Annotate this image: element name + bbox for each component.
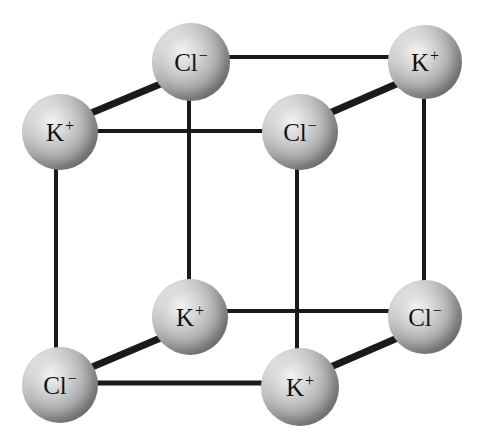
ion-label-cl-top-back: Cl−: [174, 50, 208, 75]
ion-label-cl-bottom-front-left: Cl−: [43, 373, 77, 398]
ion-sphere-k-top-back-right: K+: [388, 25, 462, 99]
ion-sphere-cl-top-front-right: Cl−: [262, 94, 338, 170]
ion-label-cl-bottom-back-right: Cl−: [408, 305, 442, 330]
ion-symbol: K: [286, 374, 304, 401]
ion-sphere-k-bottom-back-left: K+: [152, 279, 228, 355]
ion-symbol: Cl: [283, 119, 307, 146]
ion-symbol: K: [176, 304, 194, 331]
ion-sphere-cl-top-back: Cl−: [152, 23, 230, 101]
ion-sphere-k-top-front-left: K+: [22, 94, 98, 170]
crystal-lattice-figure: Cl−K+K+Cl−K+Cl−Cl−K+: [0, 0, 484, 436]
bond-bottom-left-diagonal: [85, 334, 170, 370]
ion-sphere-cl-bottom-back-right: Cl−: [388, 280, 462, 354]
ion-charge: −: [68, 370, 77, 387]
ion-charge: +: [430, 47, 439, 64]
ion-symbol: Cl: [43, 372, 67, 399]
ion-charge: −: [308, 117, 317, 134]
ion-sphere-cl-bottom-front-left: Cl−: [22, 347, 98, 423]
ion-label-cl-top-front-right: Cl−: [283, 120, 317, 145]
ion-charge: −: [433, 302, 442, 319]
ion-symbol: Cl: [408, 304, 432, 331]
ion-symbol: K: [411, 49, 429, 76]
ion-label-k-top-front-left: K+: [46, 120, 74, 145]
ion-sphere-k-bottom-front-right: K+: [261, 348, 339, 426]
ion-charge: +: [65, 117, 74, 134]
ion-charge: −: [199, 47, 208, 64]
ion-symbol: Cl: [174, 49, 198, 76]
ion-label-k-bottom-back-left: K+: [176, 305, 204, 330]
ion-label-k-top-back-right: K+: [411, 50, 439, 75]
ion-charge: +: [195, 302, 204, 319]
ion-label-k-bottom-front-right: K+: [286, 375, 314, 400]
ion-charge: +: [305, 372, 314, 389]
bond-top-left-diagonal: [84, 80, 170, 116]
ion-symbol: K: [46, 119, 64, 146]
